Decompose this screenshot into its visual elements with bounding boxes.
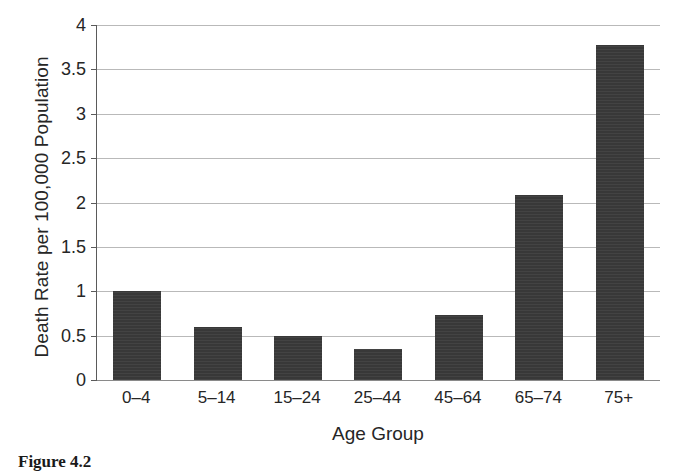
bar[interactable] [354,349,402,380]
figure-caption: Figure 4.2 [18,452,658,472]
x-axis-tick-label: 25–44 [354,388,401,408]
x-axis-title: Age Group [96,423,660,445]
bar[interactable] [435,315,483,380]
y-axis-tick-mark [91,380,97,381]
bar[interactable] [194,327,242,380]
bar-slot [499,25,579,380]
x-axis-tick-label: 45–64 [434,388,481,408]
x-axis-tick-label: 0–4 [122,388,150,408]
y-axis-tick-label: 0 [16,370,86,391]
y-axis-tick-label: 2.5 [16,148,86,169]
y-axis-tick-label: 0.5 [16,325,86,346]
x-axis-tick-labels: 0–45–1415–2425–4445–6465–7475+ [96,388,660,414]
bar[interactable] [113,291,161,380]
bar-slot [177,25,257,380]
figure-caption-label: Figure 4.2 [18,452,91,471]
y-axis-tick-label: 3.5 [16,59,86,80]
bar-slot [419,25,499,380]
bar-slot [580,25,660,380]
bar-series [97,25,660,380]
x-axis-tick-label: 65–74 [515,388,562,408]
y-axis-tick-label: 4 [16,15,86,36]
y-axis-tick-label: 2 [16,192,86,213]
x-axis-tick-label: 75+ [604,388,633,408]
bar[interactable] [274,336,322,380]
y-axis-tick-label: 1.5 [16,236,86,257]
bar-slot [258,25,338,380]
y-axis-tick-labels: 00.511.522.533.54 [8,25,86,381]
gridline [97,380,660,381]
x-axis-tick-label: 15–24 [273,388,320,408]
bar-slot [338,25,418,380]
y-axis-tick-label: 1 [16,281,86,302]
bar[interactable] [596,45,644,380]
plot-area [96,25,660,381]
y-axis-tick-label: 3 [16,103,86,124]
bar[interactable] [515,195,563,380]
bar-slot [97,25,177,380]
x-axis-tick-label: 5–14 [198,388,236,408]
